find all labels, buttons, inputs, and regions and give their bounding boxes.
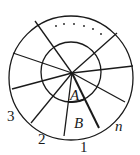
radial-line: [12, 73, 72, 89]
label-2: 2: [38, 131, 46, 147]
label-b: B: [74, 115, 83, 131]
radial-line: [35, 21, 72, 73]
label-1: 1: [80, 139, 88, 155]
label-3: 3: [7, 108, 15, 124]
radial-line: [72, 66, 133, 73]
label-a: A: [69, 87, 80, 103]
radial-line: [72, 33, 117, 73]
ellipsis-dots: [55, 23, 102, 35]
diagram-canvas: A B n 1 2 3: [0, 0, 140, 155]
radial-line: [64, 73, 72, 136]
label-n: n: [115, 118, 123, 134]
radial-line: [13, 53, 72, 73]
radial-line: [31, 73, 72, 123]
